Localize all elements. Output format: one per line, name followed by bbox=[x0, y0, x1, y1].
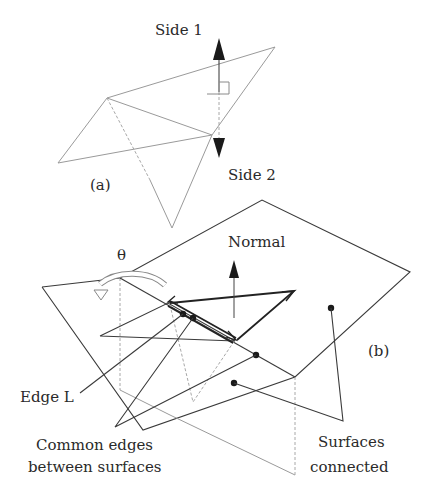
edge-lower-right bbox=[172, 135, 212, 228]
edge-bottom bbox=[58, 135, 212, 163]
common-edge-lower bbox=[168, 306, 233, 343]
figure-a: Side 1 Side 2 (a) bbox=[58, 21, 276, 228]
rotation-arrowhead-icon bbox=[94, 290, 108, 300]
hidden-edge bbox=[107, 98, 150, 180]
triangle-side1-surface bbox=[107, 47, 275, 135]
surfaces-label-1: Surfaces bbox=[318, 433, 385, 451]
normal-label: Normal bbox=[228, 233, 285, 251]
arrowhead-up-icon bbox=[229, 260, 239, 278]
common-edge-upper bbox=[170, 301, 236, 338]
leader-surfaces bbox=[234, 308, 343, 421]
arrowhead-up-icon bbox=[213, 38, 225, 60]
right-angle-icon bbox=[219, 82, 229, 94]
triangle-right bbox=[170, 291, 294, 340]
diagram-canvas: Side 1 Side 2 (a) Normal θ bbox=[0, 0, 432, 498]
figure-b: Normal θ Edge L Common edges between sur… bbox=[20, 200, 410, 476]
edge-left bbox=[58, 98, 107, 163]
panel-b-label: (b) bbox=[368, 342, 389, 360]
panel-a-label: (a) bbox=[90, 176, 111, 194]
side2-label: Side 2 bbox=[228, 166, 276, 184]
theta-label: θ bbox=[117, 246, 126, 264]
arrowhead-down-icon bbox=[213, 138, 225, 158]
edge-l-label: Edge L bbox=[20, 388, 74, 406]
plane-large bbox=[42, 200, 410, 430]
surfaces-label-2: connected bbox=[310, 458, 389, 476]
side1-label: Side 1 bbox=[155, 21, 203, 39]
common-edges-label-1: Common edges bbox=[36, 436, 153, 454]
edge-lower-left bbox=[150, 180, 172, 228]
leader-common-edges bbox=[115, 318, 256, 427]
common-edges-label-2: between surfaces bbox=[28, 458, 162, 476]
